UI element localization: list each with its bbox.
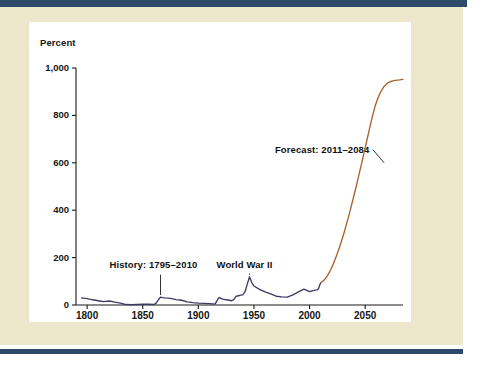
y-tick-marks	[72, 68, 76, 305]
series-line-history	[82, 277, 321, 305]
series-line-forecast	[321, 79, 403, 282]
annotation-leader-line	[373, 150, 384, 163]
bottom-rule-divider	[0, 349, 463, 354]
axis-lines	[76, 68, 403, 305]
top-rule-divider	[0, 0, 467, 7]
page-frame: Percent 1,000 800 600 400 200 0 1800 185…	[0, 0, 485, 371]
chart-panel: Percent 1,000 800 600 400 200 0 1800 185…	[29, 22, 411, 322]
x-tick-marks	[87, 305, 365, 309]
annotation-leader-lines	[161, 150, 385, 295]
chart-plot-area	[29, 22, 411, 322]
